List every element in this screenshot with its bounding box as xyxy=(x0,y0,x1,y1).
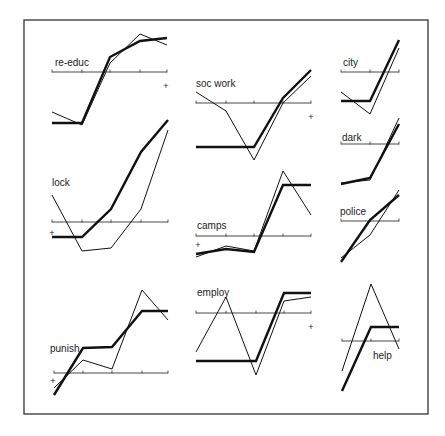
panel-label: lock xyxy=(52,177,71,188)
thin-series-line xyxy=(52,130,168,251)
plus-marker: + xyxy=(50,376,55,386)
panel-label: police xyxy=(340,206,367,217)
panel-police: police xyxy=(340,190,399,262)
panel-label: re-educ xyxy=(55,57,89,68)
plus-marker: + xyxy=(308,112,313,122)
thin-series-line xyxy=(52,34,167,125)
panel-label: punish xyxy=(50,343,79,354)
plus-marker: + xyxy=(49,228,54,238)
thin-series-line xyxy=(196,297,311,375)
panel-soc-work: soc work+ xyxy=(196,70,314,160)
panel-label: soc work xyxy=(196,78,236,89)
panel-label: dark xyxy=(342,132,362,143)
panels-group: re-educ+soc work+citylock+camps+darkpoli… xyxy=(49,34,399,395)
thick-series-line xyxy=(196,293,311,361)
panel-label: employ xyxy=(197,287,229,298)
panel-re-educ: re-educ+ xyxy=(52,34,169,125)
panel-label: city xyxy=(343,57,358,68)
panel-lock: lock+ xyxy=(49,120,168,251)
panel-employ: employ+ xyxy=(196,287,314,375)
plus-marker: + xyxy=(308,322,313,332)
plus-marker: + xyxy=(163,81,168,91)
panel-dark: dark xyxy=(341,118,399,184)
panel-label: help xyxy=(373,350,392,361)
plus-marker: + xyxy=(195,240,200,250)
thin-series-line xyxy=(341,118,399,183)
thick-series-line xyxy=(52,38,167,123)
panel-punish: punish+ xyxy=(50,290,168,395)
small-multiples-chart: re-educ+soc work+citylock+camps+darkpoli… xyxy=(0,0,445,436)
panel-camps: camps+ xyxy=(195,171,311,257)
panel-label: camps xyxy=(197,220,226,231)
panel-help: help xyxy=(342,284,399,391)
panel-city: city xyxy=(341,40,399,114)
